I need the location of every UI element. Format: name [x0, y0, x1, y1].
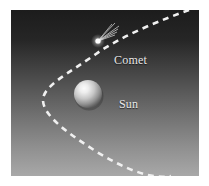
sun-body	[74, 80, 102, 108]
comet-orbit-figure: Comet Sun	[0, 0, 209, 186]
comet-body	[95, 38, 100, 43]
scene-panel: Comet Sun	[11, 10, 199, 176]
background-gradient	[11, 10, 199, 176]
scene-graphics	[11, 10, 199, 176]
sun-label: Sun	[119, 98, 138, 110]
comet-nucleus	[91, 34, 105, 48]
comet-label: Comet	[114, 54, 147, 66]
